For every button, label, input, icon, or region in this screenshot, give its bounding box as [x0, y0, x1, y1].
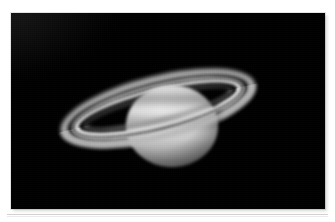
figure-divider-rule: [7, 214, 328, 215]
page-canvas: Telescopic photograph of the planet Satu…: [0, 0, 335, 222]
saturn-photograph-figure: Telescopic photograph of the planet Satu…: [11, 13, 325, 209]
figure-caption: [0, 0, 1, 1]
figure-divider-rule-secondary: [7, 216, 328, 217]
